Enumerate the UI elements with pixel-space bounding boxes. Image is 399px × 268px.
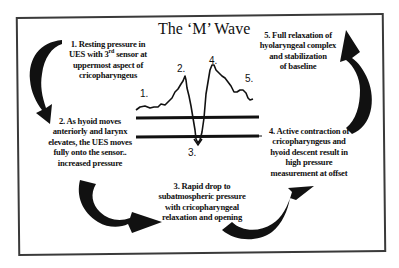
curved-arrow-4-to-5	[340, 30, 372, 134]
upper-reference-line	[136, 117, 259, 118]
curved-arrow-2-to-3	[79, 180, 162, 233]
m-wave-diagram: The ‘M’ Wave 1. Resting pressure in UES …	[0, 0, 399, 268]
m-wave-trace	[136, 65, 253, 143]
lower-reference-line	[136, 136, 259, 137]
curved-arrow-1-to-2	[30, 40, 62, 124]
curved-arrow-3-to-4	[222, 186, 314, 239]
wave-and-arrows	[0, 0, 399, 268]
